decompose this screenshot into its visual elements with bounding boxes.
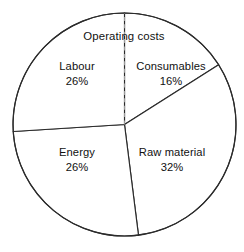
pie-label-labour-name: Labour [59, 59, 94, 74]
pie-label-consumables: Consumables 16% [136, 59, 206, 90]
pie-label-raw-material-value: 32% [139, 160, 205, 175]
pie-label-energy-value: 26% [59, 160, 95, 175]
pie-label-energy-name: Energy [59, 145, 95, 160]
pie-chart: Operating costs Labour 26% Consumables 1… [0, 0, 244, 252]
pie-label-consumables-name: Consumables [136, 59, 206, 74]
pie-slice-energy[interactable] [13, 125, 138, 236]
chart-title: Operating costs [83, 30, 164, 43]
pie-label-labour: Labour 26% [59, 59, 94, 90]
pie-label-labour-value: 26% [59, 74, 94, 89]
pie-label-raw-material: Raw material 32% [139, 145, 205, 176]
pie-label-energy: Energy 26% [59, 145, 95, 176]
pie-label-consumables-value: 16% [136, 74, 206, 89]
pie-label-raw-material-name: Raw material [139, 145, 205, 160]
